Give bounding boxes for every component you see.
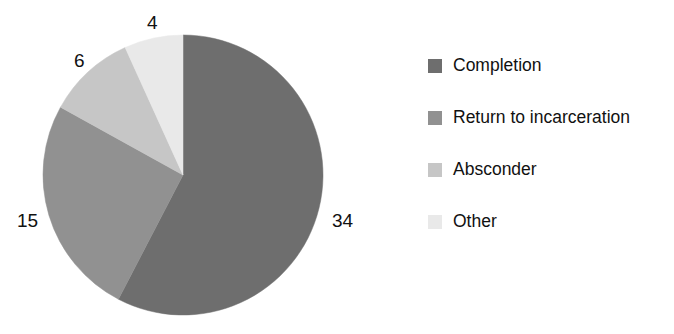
slice-value-label-other: 4 [147, 13, 158, 32]
slice-value-label-completion: 34 [332, 211, 353, 230]
slice-value-label-absconder: 6 [74, 51, 85, 70]
pie-plot-area: 34 15 6 4 [0, 0, 400, 334]
legend-swatch-icon [428, 215, 442, 229]
legend-item-completion: Completion [428, 40, 668, 92]
legend-item-absconder: Absconder [428, 144, 668, 196]
legend-item-label: Absconder [453, 161, 537, 179]
legend-item-other: Other [428, 196, 668, 248]
legend-item-label: Return to incarceration [453, 109, 630, 127]
legend-item-return-to-incarceration: Return to incarceration [428, 92, 668, 144]
pie-svg [0, 0, 400, 334]
legend-swatch-icon [428, 59, 442, 73]
pie-slice-group [43, 35, 323, 315]
slice-value-label-return-to-incarceration: 15 [17, 211, 38, 230]
chart-legend: Completion Return to incarceration Absco… [428, 40, 668, 248]
legend-item-label: Completion [453, 57, 542, 75]
legend-swatch-icon [428, 163, 442, 177]
legend-item-label: Other [453, 213, 497, 231]
pie-chart-figure: 34 15 6 4 Completion Return to incarcera… [0, 0, 674, 334]
legend-swatch-icon [428, 111, 442, 125]
